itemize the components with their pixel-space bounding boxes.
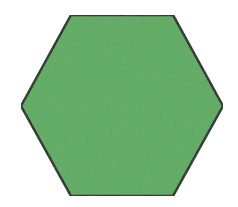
green-hexagon-shape <box>21 15 223 196</box>
figure-canvas <box>0 0 238 207</box>
hexagon-figure <box>0 0 238 207</box>
